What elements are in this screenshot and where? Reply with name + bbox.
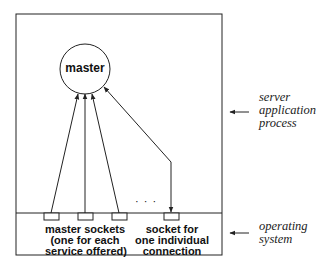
master-socket-3 xyxy=(112,213,127,220)
ellipsis-dots: · · · xyxy=(135,196,157,207)
os-label: operating system xyxy=(259,220,308,246)
server-process-label: server application process xyxy=(259,91,316,130)
master-socket-2 xyxy=(78,213,93,220)
master-label: master xyxy=(60,61,110,75)
arrow-socket3-to-master xyxy=(92,94,119,213)
label-line: process xyxy=(259,117,316,130)
connection-socket xyxy=(164,213,179,220)
label-line: system xyxy=(259,233,308,246)
connection-socket-label: socket for one individual connection xyxy=(134,224,210,257)
label-line: service offered) xyxy=(45,246,125,257)
arrow-socket1-to-master xyxy=(51,94,78,213)
label-line: connection xyxy=(134,246,210,257)
master-socket-1 xyxy=(44,213,59,220)
master-sockets-label: master sockets (one for each service off… xyxy=(45,224,125,257)
diagram-canvas: master · · · master sockets (one for eac… xyxy=(0,0,333,270)
